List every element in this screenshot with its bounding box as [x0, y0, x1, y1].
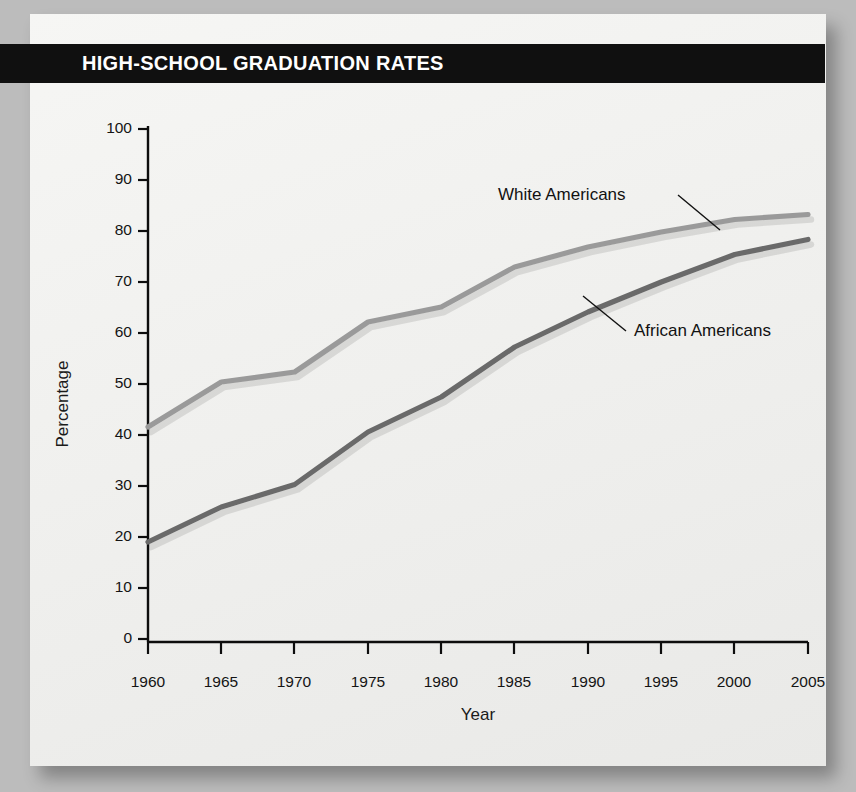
y-tick-label: 60 — [115, 323, 133, 340]
x-tick-label: 2000 — [717, 673, 752, 690]
y-tick-label: 100 — [106, 119, 132, 136]
x-tick-label: 1975 — [351, 673, 385, 690]
title-banner: HIGH-SCHOOL GRADUATION RATES — [0, 44, 825, 83]
y-tick-label: 80 — [115, 221, 133, 238]
y-tick-label: 30 — [115, 476, 133, 493]
x-tick-label: 1970 — [277, 673, 312, 690]
y-tick-label: 50 — [115, 374, 133, 391]
y-tick-label: 0 — [123, 629, 132, 646]
y-tick-label: 20 — [115, 527, 133, 544]
x-tick-label: 1990 — [571, 673, 606, 690]
x-axis-title: Year — [461, 705, 496, 724]
y-tick-marks — [138, 129, 148, 639]
y-tick-labels: 0 10 20 30 40 50 60 70 80 90 100 — [106, 119, 132, 646]
y-tick-label: 40 — [115, 425, 133, 442]
y-axis-title: Percentage — [53, 361, 72, 448]
x-tick-marks — [148, 642, 808, 654]
x-tick-label: 1965 — [204, 673, 238, 690]
y-tick-label: 70 — [115, 272, 133, 289]
x-tick-label: 2005 — [791, 673, 825, 690]
x-tick-label: 1995 — [644, 673, 678, 690]
line-chart-svg: Percentage 0 10 20 30 40 50 60 70 80 90 … — [30, 14, 826, 766]
x-tick-label: 1960 — [131, 673, 166, 690]
x-tick-label: 1980 — [424, 673, 459, 690]
x-tick-labels: 1960 1965 1970 1975 1980 1985 1990 1995 … — [131, 673, 825, 690]
chart-figure: Percentage 0 10 20 30 40 50 60 70 80 90 … — [30, 14, 826, 766]
y-tick-label: 10 — [115, 578, 133, 595]
x-tick-label: 1985 — [497, 673, 531, 690]
banner-title-text: HIGH-SCHOOL GRADUATION RATES — [82, 52, 444, 75]
series-annotation-white-americans: White Americans — [498, 185, 626, 204]
y-tick-label: 90 — [115, 170, 133, 187]
series-annotation-african-americans: African Americans — [634, 321, 771, 340]
